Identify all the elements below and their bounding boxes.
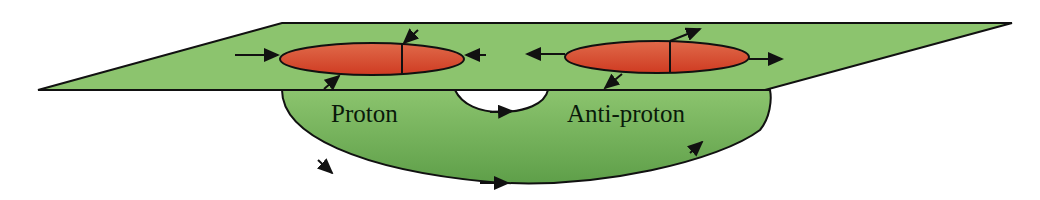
horizontal-plane: [38, 23, 1012, 90]
proton-label: Proton: [331, 100, 398, 127]
antiproton-label: Anti-proton: [567, 100, 686, 127]
proton-ellipse: [280, 43, 464, 75]
hole-arrow-icon: [490, 111, 512, 112]
antiproton-ellipse: [565, 41, 749, 73]
proton-antiproton-diagram: Proton Anti-proton: [0, 0, 1040, 200]
loop-arrow-left-icon: [318, 160, 332, 173]
